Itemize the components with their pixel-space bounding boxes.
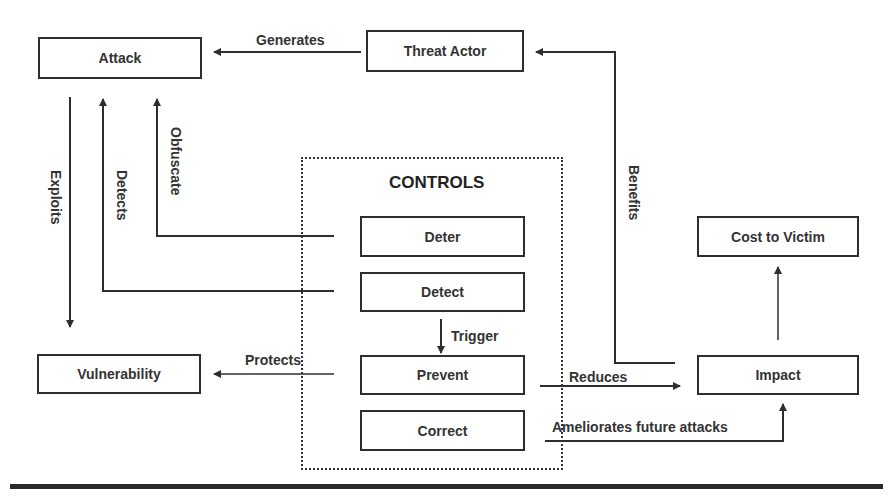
control-correct: Correct [360, 410, 525, 451]
edge-label-exploits: Exploits [48, 170, 64, 224]
controls-title: CONTROLS [389, 173, 484, 193]
edge-label-ameliorates: Ameliorates future attacks [552, 419, 728, 435]
node-vulnerability: Vulnerability [37, 354, 201, 394]
edge-label-trigger: Trigger [451, 328, 498, 344]
edge-label-detects: Detects [114, 170, 130, 221]
edge-label-obfuscate: Obfuscate [168, 127, 184, 195]
control-detect: Detect [360, 272, 525, 312]
edge-label-protects: Protects [245, 352, 301, 368]
node-threat-actor: Threat Actor [366, 30, 524, 72]
control-prevent: Prevent [360, 355, 525, 395]
node-attack: Attack [38, 37, 202, 79]
bottom-rule-divider [10, 484, 883, 489]
control-deter: Deter [360, 216, 525, 257]
edge-label-reduces: Reduces [569, 369, 627, 385]
edge-label-benefits: Benefits [626, 165, 642, 220]
node-cost-to-victim: Cost to Victim [697, 216, 859, 257]
node-impact: Impact [697, 355, 859, 395]
edge-label-generates: Generates [256, 32, 324, 48]
